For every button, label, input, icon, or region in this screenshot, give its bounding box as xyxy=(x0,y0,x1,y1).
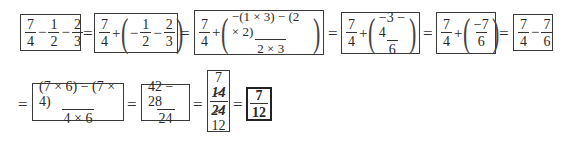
plus-operator: + xyxy=(112,25,120,42)
fraction-7-4: 74 xyxy=(518,17,529,49)
plus-operator: + xyxy=(212,24,220,41)
expression-step-7: (7 × 6) − (7 × 4)4 × 6 xyxy=(32,83,124,121)
plus-operator: + xyxy=(359,25,367,42)
left-paren: ( xyxy=(121,16,128,50)
expression-step-5: 74 + ( −76 ) xyxy=(436,12,496,54)
equals-sign: = xyxy=(83,25,93,42)
fraction-2-3: 23 xyxy=(72,17,83,49)
equals-sign: = xyxy=(180,25,190,42)
left-paren: ( xyxy=(368,16,375,50)
expression-step-8: 42 − 2824 xyxy=(141,84,190,121)
equals-sign: = xyxy=(328,25,338,42)
fraction-cross-products: (7 × 6) − (7 × 4)4 × 6 xyxy=(37,79,119,126)
expression-step-2: 74 + ( − 12 − 23 ) xyxy=(94,13,178,53)
minus-operator: − xyxy=(153,25,161,42)
equals-sign: = xyxy=(193,96,203,113)
minus-operator: − xyxy=(531,24,539,41)
fraction-42-minus-28-over-24: 42 − 2824 xyxy=(146,79,185,126)
fraction-7-4: 74 xyxy=(441,17,452,49)
expression-step-1: 74 − 12 − 23 xyxy=(20,14,81,51)
fraction-7-4: 74 xyxy=(25,17,36,49)
fraction-7-4: 74 xyxy=(99,17,110,49)
cancelled-denominator: 24 xyxy=(212,103,226,118)
expression-step-4: 74 + ( −3 − 46 ) xyxy=(341,12,420,54)
fraction-neg7-6: −76 xyxy=(472,17,491,49)
equals-sign: = xyxy=(18,96,28,113)
cancelled-numerator: 14 xyxy=(212,85,226,100)
reduced-numerator: 7 xyxy=(215,70,222,85)
fraction-1-2: 12 xyxy=(48,17,59,49)
fraction-1-2: 12 xyxy=(140,17,151,49)
expression-step-9-simplify: 7 14 24 12 xyxy=(207,70,230,132)
equals-sign: = xyxy=(127,96,137,113)
left-paren: ( xyxy=(463,16,470,50)
fraction-7-6: 76 xyxy=(541,17,552,49)
fraction-7-12: 712 xyxy=(250,88,268,120)
final-answer: 712 xyxy=(246,87,272,121)
expression-step-3: 74 + ( −(1 × 3) − (2 × 2)2 × 3 ) xyxy=(194,10,324,55)
fraction-cross-multiply: −(1 × 3) − (2 × 2)2 × 3 xyxy=(230,9,312,56)
fraction-neg3-minus-4-over-6: −3 − 46 xyxy=(377,10,408,57)
fraction-bar xyxy=(210,101,228,102)
negative-sign: − xyxy=(130,25,138,42)
left-paren: ( xyxy=(221,16,228,50)
plus-operator: + xyxy=(454,25,462,42)
fraction-7-4: 74 xyxy=(199,17,210,49)
equals-sign: = xyxy=(233,96,243,113)
minus-operator: − xyxy=(61,24,69,41)
fraction-7-4: 74 xyxy=(346,17,357,49)
equals-sign: = xyxy=(499,25,509,42)
right-paren: ) xyxy=(409,16,416,50)
reduced-denominator: 12 xyxy=(212,118,226,133)
right-paren: ) xyxy=(492,16,499,50)
fraction-2-3: 23 xyxy=(164,17,175,49)
right-paren: ) xyxy=(313,16,320,50)
equals-sign: = xyxy=(423,25,433,42)
minus-operator: − xyxy=(38,24,46,41)
expression-step-6: 74 − 76 xyxy=(513,14,553,51)
